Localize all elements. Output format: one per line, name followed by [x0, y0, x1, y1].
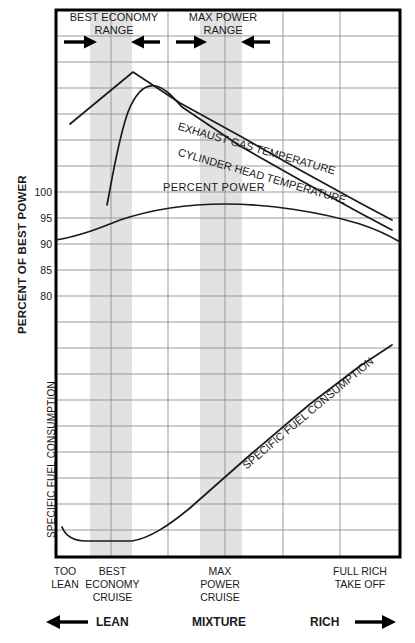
x-category-best-economy-cruise: BEST ECONOMY CRUISE — [75, 565, 150, 604]
range-header-max-power: MAX POWER RANGE — [173, 11, 273, 36]
curve-cylinder-head-temperature — [107, 86, 392, 230]
x-category-best-economy-line1: BEST — [99, 565, 126, 577]
y-tick-label-80: 80 — [22, 290, 52, 302]
x-category-full-rich-line2: TAKE OFF — [335, 578, 386, 590]
band-max-power — [200, 10, 242, 557]
y-axis-title-specific-fuel-consumption: SPECIFIC FUEL CONSUMPTION — [46, 381, 57, 538]
x-category-max-power-line3: CRUISE — [200, 591, 240, 603]
x-axis-label-mixture: MIXTURE — [192, 615, 246, 629]
range-header-max-power-line1: MAX POWER — [189, 11, 257, 23]
mixture-performance-chart — [0, 0, 415, 643]
x-category-max-power-line2: POWER — [200, 578, 240, 590]
x-category-max-power-cruise: MAX POWER CRUISE — [185, 565, 255, 604]
range-header-max-power-line2: RANGE — [203, 24, 242, 36]
arrow-left-best-economy — [131, 36, 160, 49]
x-category-too-lean-line1: TOO — [54, 565, 77, 577]
range-header-best-economy-line1: BEST ECONOMY — [70, 11, 158, 23]
x-axis-label-lean: LEAN — [96, 615, 129, 629]
x-category-full-rich-line1: FULL RICH — [333, 565, 387, 577]
range-header-best-economy: BEST ECONOMY RANGE — [64, 11, 164, 36]
arrow-left-lean — [46, 615, 88, 629]
x-category-best-economy-line2: ECONOMY — [85, 578, 139, 590]
arrow-right-rich — [355, 615, 396, 629]
x-axis-label-rich: RICH — [310, 615, 339, 629]
x-category-max-power-line1: MAX — [209, 565, 232, 577]
y-tick-label-85: 85 — [22, 264, 52, 276]
y-tick-label-90: 90 — [22, 238, 52, 250]
y-tick-label-100: 100 — [22, 186, 52, 198]
arrow-left-max-power — [241, 36, 270, 49]
curve-label-percent-power: PERCENT POWER — [163, 181, 265, 193]
range-bands — [90, 10, 242, 557]
y-tick-label-95: 95 — [22, 212, 52, 224]
range-header-best-economy-line2: RANGE — [94, 24, 133, 36]
x-category-best-economy-line3: CRUISE — [93, 591, 133, 603]
x-category-full-rich-take-off: FULL RICH TAKE OFF — [320, 565, 400, 591]
y-axis-title-percent-of-best-power: PERCENT OF BEST POWER — [16, 175, 28, 334]
